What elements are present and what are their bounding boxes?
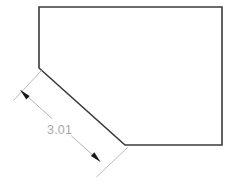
dimension-value-text[interactable]: 3.01: [47, 123, 72, 137]
dimension-arrowhead-upper: [20, 90, 30, 100]
cad-drawing-canvas: 3.01: [0, 0, 235, 189]
technical-drawing-svg: 3.01: [0, 0, 235, 189]
dimension-arrowhead-lower: [91, 152, 101, 162]
extension-line-lower: [97, 148, 128, 178]
